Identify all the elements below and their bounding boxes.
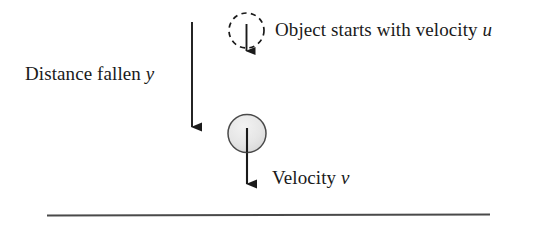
initial-velocity-symbol: u (483, 19, 493, 40)
ground-line (47, 215, 490, 216)
object-starts-label: Object starts with velocity u (275, 20, 492, 39)
velocity-label: Velocity v (272, 168, 350, 187)
distance-fallen-symbol: y (146, 63, 155, 84)
free-fall-diagram: Distance fallen y Object starts with vel… (0, 0, 534, 235)
object-starts-text: Object starts with velocity (275, 19, 478, 40)
final-velocity-symbol: v (341, 167, 350, 188)
velocity-text: Velocity (272, 167, 336, 188)
distance-fallen-label: Distance fallen y (25, 64, 154, 83)
distance-fallen-text: Distance fallen (25, 63, 141, 84)
